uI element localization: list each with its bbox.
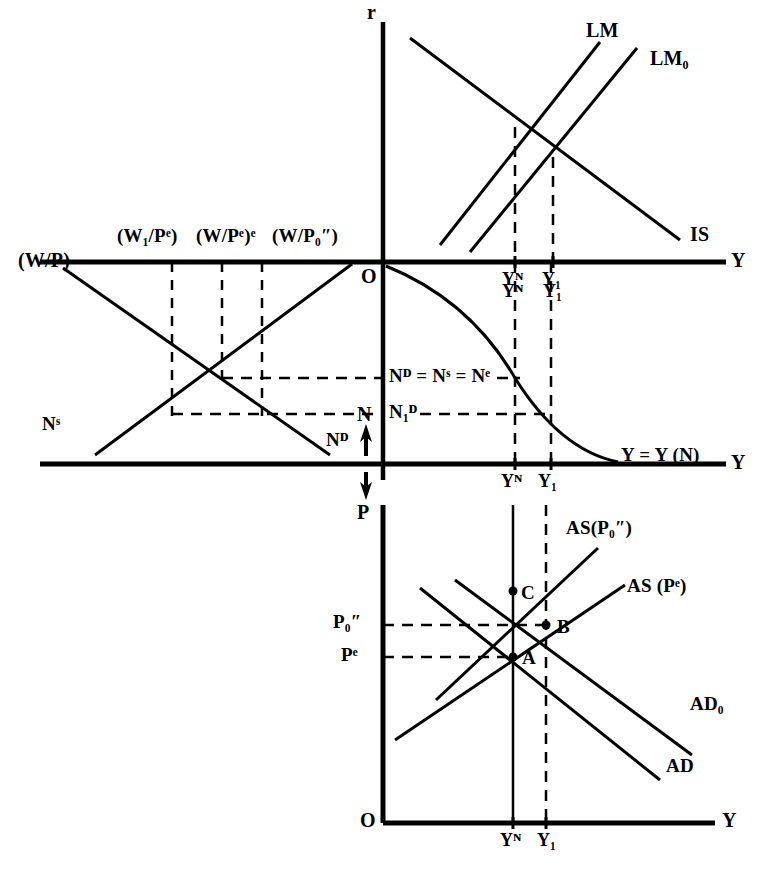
curve-lm (440, 42, 600, 245)
point-A-marker (509, 653, 518, 662)
curve-label-as-p0: AS(P₀″) (566, 518, 632, 537)
curve-label-as-pe: AS (Pᵉ) (627, 576, 687, 595)
point-label-B: B (557, 617, 570, 636)
tick-label-adas-top-yn: Yᴺ (501, 472, 522, 490)
curve-is (410, 38, 680, 240)
curve-label-labour-demand: Nᴰ (326, 430, 348, 449)
curve-label-lm: LM (586, 20, 619, 40)
curve-ad (420, 588, 660, 780)
axis-label-output-middle: Y (731, 452, 746, 472)
point-B-marker (542, 621, 551, 630)
curve-label-labour-supply: Nˢ (42, 414, 60, 433)
curve-label-ad0: AD₀ (690, 694, 724, 713)
curve-label-production-function: Y = Y (N) (621, 445, 700, 464)
tick-label-adas-top-y1: Y₁ (538, 472, 557, 490)
employment-equilibrium-label: Nᴰ = Nˢ = Nᵉ (389, 366, 490, 385)
figure-root: r LM LM₀ IS Y Yᴺ Y₁ (W/P) (W₁/Pᵉ) (W/Pᵉ)… (0, 0, 764, 876)
tick-label-w1pe: (W₁/Pᵉ) (117, 226, 178, 245)
tick-label-wpee: (W/Pᵉ)ᵉ (196, 226, 256, 245)
tick-label-bottom-y1: Y₁ (537, 831, 556, 849)
curve-label-lm0: LM₀ (650, 48, 689, 68)
diagram-canvas (0, 0, 764, 876)
tick-label-bottom-yn: Yᴺ (500, 831, 521, 849)
price-tick-label-pe: Pᵉ (341, 645, 358, 664)
axis-label-output-bottom: Y (722, 810, 737, 830)
curve-labour-supply (95, 264, 352, 455)
tick-label-production-y1: Y₁ (543, 282, 562, 300)
axis-label-real-wage: (W/P) (18, 250, 70, 270)
point-label-C: C (521, 583, 535, 602)
axis-label-interest-rate: r (367, 2, 376, 22)
axis-label-output-top: Y (731, 250, 746, 270)
axis-label-price: P (357, 502, 369, 522)
curve-as-pe (395, 585, 625, 740)
axis-label-employment: N (357, 404, 372, 424)
origin-label-bottom: O (360, 810, 376, 830)
point-label-A: A (522, 648, 536, 667)
origin-label-top: O (361, 266, 377, 286)
point-C-marker (509, 587, 518, 596)
price-tick-label-p0: P₀″ (333, 612, 361, 631)
curve-label-is: IS (690, 224, 709, 244)
curve-ad0 (455, 580, 692, 755)
curve-labour-demand (63, 268, 330, 455)
tick-label-production-yn: Yᴺ (502, 282, 523, 300)
curve-label-ad: AD (666, 756, 694, 775)
employment-n1d-label: N₁ᴰ (389, 402, 417, 421)
tick-label-wp0: (W/P₀″) (272, 226, 338, 245)
